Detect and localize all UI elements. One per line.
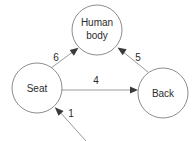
node-label-back: Back — [152, 88, 175, 99]
edge-seat-to-human-body: 6 — [51, 48, 79, 68]
edge-external-to-seat: 1 — [55, 107, 86, 141]
edge-label-seat-to-back: 4 — [93, 75, 99, 86]
edge-label-external-to-seat: 1 — [68, 108, 74, 119]
node-label-seat: Seat — [27, 83, 48, 94]
node-label-human-body-line2: body — [86, 30, 108, 41]
node-label-human-body-line1: Human — [81, 17, 113, 28]
node-seat[interactable]: Seat — [12, 63, 62, 113]
edge-back-to-human-body: 5 — [118, 47, 149, 72]
node-human-body[interactable]: Human body — [72, 5, 122, 55]
node-back[interactable]: Back — [138, 68, 188, 118]
edge-label-seat-to-human-body: 6 — [53, 52, 59, 63]
edge-label-back-to-human-body: 5 — [135, 52, 141, 63]
edge-seat-to-back: 4 — [62, 75, 138, 94]
arrowhead-seat-to-back — [130, 86, 138, 93]
diagram-canvas: 4 6 5 1 Human body Seat — [0, 0, 196, 141]
arrowhead-seat-to-human-body — [70, 48, 79, 56]
directed-graph-svg: 4 6 5 1 Human body Seat — [0, 0, 196, 141]
